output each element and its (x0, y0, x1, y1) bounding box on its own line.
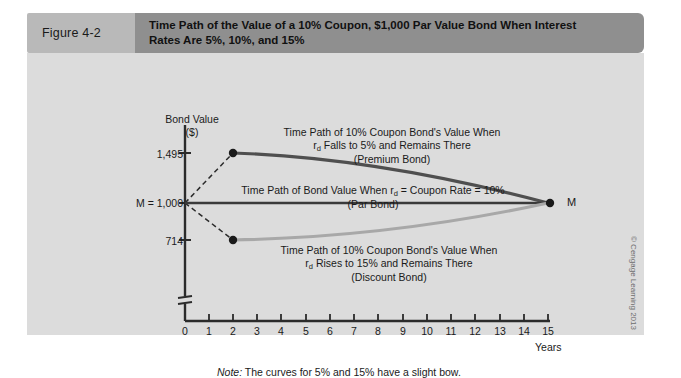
rd-subscript-discount: d (309, 262, 313, 271)
annotation-premium-line-3: (Premium Bond) (263, 153, 521, 166)
maturity-marker-label: M (567, 196, 576, 209)
y-tick-label-1495: 1,495 (115, 148, 183, 161)
y-axis-title: Bond Value ($) (147, 113, 237, 139)
annotation-premium-bond: Time Path of 10% Coupon Bond's Value Whe… (263, 126, 521, 166)
annotation-discount-line-1: Time Path of 10% Coupon Bond's Value Whe… (251, 244, 527, 257)
figure-note: Note: The curves for 5% and 15% have a s… (217, 366, 557, 378)
y-tick-label-714: 714 (115, 235, 183, 248)
annotation-discount-line-3: (Discount Bond) (251, 271, 527, 284)
figure-body-panel: Bond Value ($) 1,495 M = 1,000 714 Time … (27, 53, 644, 335)
x-tick-label-5: 5 (295, 325, 317, 337)
figure-header: Figure 4-2 Time Path of the Value of a 1… (27, 13, 644, 53)
data-point-maturity (546, 199, 554, 207)
x-axis-title: Years (535, 341, 561, 354)
x-tick-label-4: 4 (270, 325, 292, 337)
y-axis-break-mark-2 (178, 302, 192, 304)
y-axis-break-mark-1 (178, 296, 192, 298)
figure-note-text: The curves for 5% and 15% have a slight … (242, 366, 461, 378)
x-tick-label-1: 1 (198, 325, 220, 337)
copyright-notice: © Cengage Learning 2013 (629, 236, 638, 330)
figure-note-prefix: Note: (217, 366, 242, 378)
x-tick-label-7: 7 (343, 325, 365, 337)
x-tick-label-10: 10 (416, 325, 438, 337)
x-tick-label-12: 12 (464, 325, 486, 337)
rd-subscript-premium: d (317, 144, 321, 153)
x-tick-label-2: 2 (222, 325, 244, 337)
figure-title-line-1: Time Path of the Value of a 10% Coupon, … (149, 18, 634, 33)
annotation-par-line-1-text: Time Path of Bond Value When r (241, 184, 393, 196)
annotation-discount-line-2: rd Rises to 15% and Remains There (251, 257, 527, 271)
y-tick-label-1000: M = 1,000 (87, 197, 183, 210)
annotation-par-line-1-tail: = Coupon Rate = 10% (398, 184, 505, 196)
x-tick-label-6: 6 (319, 325, 341, 337)
figure-title: Time Path of the Value of a 10% Coupon, … (135, 13, 644, 53)
x-tick-label-13: 13 (489, 325, 511, 337)
annotation-par-bond: Time Path of Bond Value When rd = Coupon… (217, 184, 529, 211)
y-axis-title-line-2: ($) (147, 126, 237, 139)
annotation-discount-line-2-text: Rises to 15% and Remains There (313, 257, 473, 269)
data-point-discount-year1 (229, 236, 237, 244)
annotation-par-line-1: Time Path of Bond Value When rd = Coupon… (217, 184, 529, 198)
x-tick-label-9: 9 (392, 325, 414, 337)
x-tick-label-0: 0 (174, 325, 196, 337)
annotation-discount-bond: Time Path of 10% Coupon Bond's Value Whe… (251, 244, 527, 284)
x-tick-label-8: 8 (367, 325, 389, 337)
annotation-premium-line-2: rd Falls to 5% and Remains There (263, 139, 521, 153)
annotation-premium-line-2-text: Falls to 5% and Remains There (321, 139, 471, 151)
data-point-premium-year1 (229, 149, 237, 157)
y-axis-title-line-1: Bond Value (147, 113, 237, 126)
x-tick-label-14: 14 (513, 325, 535, 337)
annotation-par-line-2: (Par Bond) (217, 198, 529, 211)
figure-number-label: Figure 4-2 (27, 13, 135, 53)
x-tick-label-3: 3 (246, 325, 268, 337)
rd-subscript-par: d (394, 189, 398, 198)
figure-title-line-2: Rates Are 5%, 10%, and 15% (149, 33, 634, 48)
annotation-premium-line-1: Time Path of 10% Coupon Bond's Value Whe… (263, 126, 521, 139)
x-tick-label-15: 15 (537, 325, 559, 337)
x-tick-label-11: 11 (440, 325, 462, 337)
